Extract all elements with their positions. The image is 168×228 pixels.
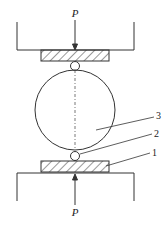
bottom-force-label: P (71, 206, 79, 218)
compression-test-diagram: P P 3 2 1 (0, 0, 168, 228)
top-force-label: P (71, 7, 79, 19)
top-small-ball (71, 62, 80, 71)
callout-1: 1 (152, 147, 157, 158)
bottom-plate (41, 161, 109, 172)
top-plate (41, 50, 109, 61)
callout-3: 3 (156, 110, 161, 121)
bottom-force-arrow (73, 174, 78, 205)
bottom-small-ball (71, 152, 80, 161)
leader-lines (80, 117, 154, 166)
top-force-arrow (73, 20, 78, 50)
callout-2: 2 (154, 128, 159, 139)
